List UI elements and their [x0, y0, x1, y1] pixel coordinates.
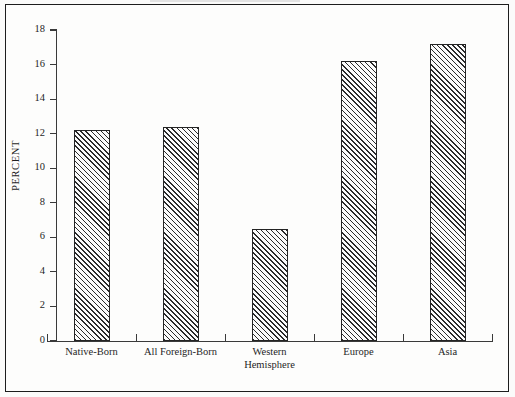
x-axis-line: [47, 341, 492, 342]
x-axis-tick: [403, 334, 404, 342]
y-axis-line: [56, 30, 57, 342]
y-tick-label: 14: [25, 93, 45, 103]
bar: [341, 61, 377, 341]
bar: [252, 229, 288, 341]
x-axis-label: Asia: [393, 346, 502, 359]
x-axis-tick: [47, 334, 48, 342]
y-tick-label: 0: [25, 335, 45, 345]
y-tick-label: 16: [25, 59, 45, 69]
y-tick-label: 4: [25, 266, 45, 276]
bar: [74, 130, 110, 341]
y-tick-label-group: 4: [0, 266, 57, 276]
y-tick-label: 8: [25, 197, 45, 207]
y-tick-label-group: 12: [0, 128, 57, 138]
bar: [163, 127, 199, 341]
y-tick-label-group: 16: [0, 59, 57, 69]
y-tick-label-group: 6: [0, 231, 57, 241]
y-tick-label-group: 10: [0, 162, 57, 172]
x-axis-label-line: Asia: [393, 346, 502, 359]
y-tick-label: 10: [25, 162, 45, 172]
y-tick-label-group: 0: [0, 335, 57, 345]
y-tick-label: 12: [25, 128, 45, 138]
plot-area: PERCENT 024681012141618 Native-BornAll F…: [0, 0, 515, 397]
bar: [430, 44, 466, 341]
x-axis-tick: [314, 334, 315, 342]
y-tick-label-group: 2: [0, 300, 57, 310]
y-tick-label-group: 14: [0, 93, 57, 103]
y-tick-label: 6: [25, 231, 45, 241]
y-tick-label: 2: [25, 300, 45, 310]
x-axis-tick: [492, 334, 493, 342]
x-axis-tick: [225, 334, 226, 342]
y-tick-label: 18: [25, 24, 45, 34]
y-tick-label-group: 18: [0, 24, 57, 34]
y-tick-label-group: 8: [0, 197, 57, 207]
x-axis-label-line: Hemisphere: [215, 359, 324, 372]
x-axis-tick: [136, 334, 137, 342]
figure-container: PERCENT 024681012141618 Native-BornAll F…: [0, 0, 515, 397]
